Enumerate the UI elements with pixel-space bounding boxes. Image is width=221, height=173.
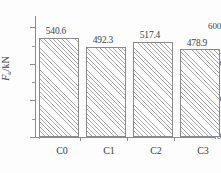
x-tick-mark-c0-left (39, 137, 40, 139)
x-tick-label-c1: C1 (86, 145, 132, 156)
x-tick-label-c2: C2 (133, 145, 179, 156)
x-tick-label-c0: C0 (39, 145, 85, 156)
y-axis-subscript: u (5, 71, 13, 75)
y-axis-unit: /kN (0, 56, 11, 71)
x-tick-mark-c1-right (127, 137, 128, 141)
x-axis-line (35, 137, 216, 138)
bar-value-label-c0: 540.6 (31, 26, 81, 36)
bar-value-label-c2: 517.4 (125, 30, 175, 40)
bar-c2[interactable] (133, 42, 173, 137)
x-tick-mark-c2-right (174, 137, 175, 141)
x-tick-mark-c3-right (215, 137, 216, 139)
x-tick-label-c3: C3 (180, 145, 221, 156)
bar-chart-figure: Fu/kN 0 200 400 600 540.6 492.3 517.4 47… (0, 0, 221, 173)
x-tick-mark-c0-right (80, 137, 81, 141)
y-axis-symbol: F (0, 75, 11, 81)
bar-c1[interactable] (86, 47, 126, 137)
bar-c3[interactable] (180, 49, 220, 137)
bar-c0[interactable] (39, 38, 79, 137)
bar-value-label-c3: 478.9 (172, 38, 221, 48)
bar-value-label-c1: 492.3 (78, 35, 128, 45)
y-axis-title: Fu/kN (1, 49, 14, 89)
